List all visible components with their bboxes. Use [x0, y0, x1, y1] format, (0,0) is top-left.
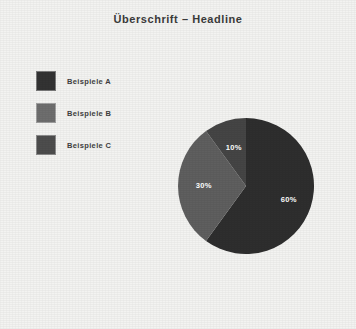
- pie-chart: 60%30%10%: [178, 118, 314, 254]
- legend-swatch-c: [36, 135, 56, 155]
- legend-label-c: Beispiele C: [67, 141, 111, 150]
- legend-swatch-b: [36, 103, 56, 123]
- chart-legend: Beispiele A Beispiele B Beispiele C: [36, 69, 146, 165]
- pie-slice-label-3: 10%: [226, 143, 242, 152]
- legend-item-a[interactable]: Beispiele A: [36, 69, 146, 93]
- legend-label-b: Beispiele B: [67, 109, 111, 118]
- legend-item-b[interactable]: Beispiele B: [36, 101, 146, 125]
- legend-label-a: Beispiele A: [67, 77, 111, 86]
- page-title: Überschrift – Headline: [0, 13, 356, 25]
- slide-canvas: Überschrift – Headline Beispiele A Beisp…: [0, 0, 356, 329]
- pie-slice-label-2: 30%: [196, 181, 212, 190]
- pie-slice-label-1: 60%: [281, 195, 297, 204]
- legend-swatch-a: [36, 71, 56, 91]
- legend-item-c[interactable]: Beispiele C: [36, 133, 146, 157]
- pie-chart-svg: 60%30%10%: [178, 118, 314, 254]
